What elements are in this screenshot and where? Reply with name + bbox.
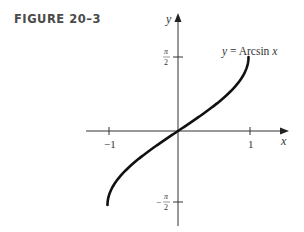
- x-tick-label-neg1: −1: [104, 138, 116, 150]
- y-tick-label-two: 2: [164, 58, 168, 67]
- arcsin-chart: −1 1 π 2 − π 2 x y y = Arcsin x: [0, 0, 304, 232]
- x-tick-label-pos1: 1: [248, 138, 254, 150]
- y-axis-label: y: [165, 12, 172, 26]
- y-tick-label-neg-pi: π: [164, 192, 169, 201]
- curve-label-eq: = Arcsin: [227, 45, 272, 57]
- curve-label-x: x: [271, 45, 278, 57]
- y-axis-arrow-icon: [175, 13, 182, 22]
- x-axis-label: x: [280, 134, 287, 148]
- curve-label: y = Arcsin x: [221, 45, 278, 58]
- y-tick-label-minus: −: [156, 197, 161, 207]
- y-tick-label-pi: π: [164, 47, 169, 56]
- y-tick-label-neg-two: 2: [164, 203, 168, 212]
